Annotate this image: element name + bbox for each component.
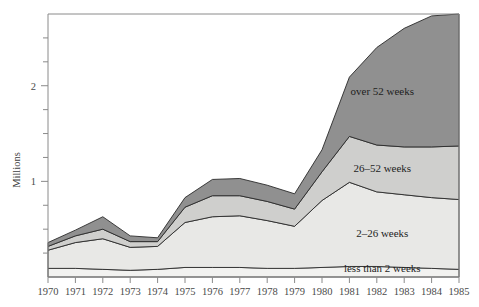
series-label-less-than-2-weeks: less than 2 weeks	[344, 262, 421, 274]
series-label-over-52-weeks: over 52 weeks	[351, 85, 415, 97]
stacked-area-chart: 12 1970197119721973197419751976197719781…	[0, 0, 479, 307]
y-axis-ticks	[41, 38, 48, 253]
y-tick-label: 2	[31, 81, 36, 92]
chart-figure: 12 1970197119721973197419751976197719781…	[0, 0, 479, 307]
x-tick-label: 1975	[175, 286, 196, 297]
y-tick-label: 1	[31, 176, 36, 187]
x-tick-label: 1978	[257, 286, 278, 297]
y-axis-title: Millions	[11, 152, 22, 188]
x-tick-label: 1971	[65, 286, 86, 297]
x-tick-label: 1977	[229, 286, 250, 297]
x-tick-label: 1972	[92, 286, 113, 297]
series-label-26-52-weeks: 26–52 weeks	[353, 162, 411, 174]
x-tick-label: 1979	[284, 286, 305, 297]
x-tick-label: 1980	[312, 286, 333, 297]
x-tick-label: 1974	[147, 286, 169, 297]
x-tick-label: 1976	[202, 286, 223, 297]
series-label-2-26-weeks: 2–26 weeks	[356, 227, 408, 239]
x-tick-label: 1981	[339, 286, 360, 297]
x-tick-label: 1984	[421, 286, 443, 297]
x-tick-label: 1973	[120, 286, 141, 297]
x-tick-label: 1970	[38, 286, 59, 297]
x-tick-label: 1985	[449, 286, 470, 297]
x-axis-ticks	[48, 277, 459, 283]
x-axis-tick-labels: 1970197119721973197419751976197719781979…	[38, 286, 470, 297]
x-tick-label: 1982	[366, 286, 387, 297]
y-axis-tick-labels: 12	[31, 81, 36, 188]
x-tick-label: 1983	[394, 286, 415, 297]
